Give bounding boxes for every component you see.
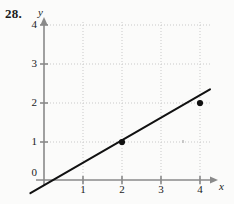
x-tick-label-4: 4 <box>193 183 207 195</box>
tick-marks <box>40 25 200 184</box>
data-point-marker <box>197 100 203 106</box>
y-tick-label-4: 4 <box>25 18 37 30</box>
y-tick-label-1: 1 <box>25 135 37 147</box>
y-tick-label-2: 2 <box>25 96 37 108</box>
graph-figure: 28. <box>0 0 234 204</box>
y-axis-label: y <box>38 6 43 18</box>
x-tick-label-1: 1 <box>76 183 90 195</box>
y-tick-label-3: 3 <box>25 57 37 69</box>
x-axis-arrowhead <box>210 176 218 183</box>
x-tick-label-2: 2 <box>115 183 129 195</box>
x-axis-label: x <box>219 180 224 192</box>
x-tick-label-3: 3 <box>154 183 168 195</box>
data-point-marker <box>119 139 125 145</box>
scan-artifact <box>182 140 184 143</box>
y-axis-arrowhead <box>40 17 47 25</box>
grid-lines <box>44 22 212 186</box>
y-tick-label-0: 0 <box>25 166 37 178</box>
